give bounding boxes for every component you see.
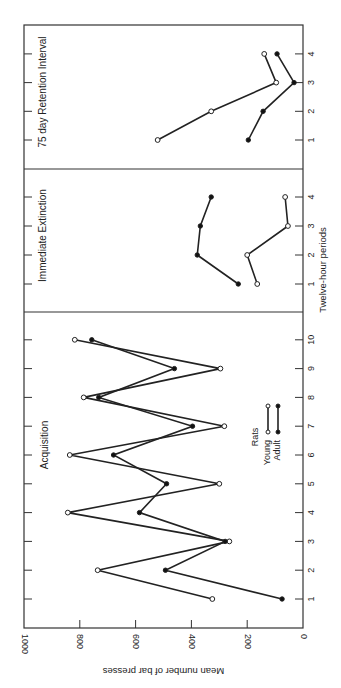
open-circle-marker [67, 453, 72, 458]
filled-circle-marker [111, 453, 115, 457]
panel-title: Acquisition [39, 421, 50, 469]
open-circle-marker [210, 597, 215, 602]
legend-open-circle-icon [266, 430, 270, 434]
series-line-adult [92, 340, 282, 599]
period-tick-label: 2 [306, 252, 316, 257]
legend-open-circle-icon [266, 404, 270, 408]
period-tick-label: 3 [306, 223, 316, 228]
open-circle-marker [274, 80, 279, 85]
period-tick-label: 1 [306, 281, 316, 286]
open-circle-marker [72, 337, 77, 342]
open-circle-marker [217, 481, 222, 486]
filled-circle-marker [236, 282, 240, 286]
period-tick-label: 1 [306, 137, 316, 142]
filled-circle-marker [163, 568, 167, 572]
open-circle-marker [255, 282, 260, 287]
period-tick-label: 3 [306, 539, 316, 544]
period-tick-label: 6 [306, 452, 316, 457]
value-tick-label: 800 [75, 634, 85, 649]
period-tick-label: 10 [306, 335, 316, 345]
panel-title: Immediate Extinction [37, 189, 48, 282]
filled-circle-marker [97, 395, 101, 399]
period-tick-label: 3 [306, 80, 316, 85]
panel-title: 75 day Retention Interval [37, 36, 48, 147]
period-tick-label: 4 [306, 194, 316, 199]
filled-circle-marker [90, 338, 94, 342]
legend-entry-label: Adult [272, 440, 282, 461]
filled-circle-marker [280, 597, 284, 601]
period-tick-label: 4 [306, 51, 316, 56]
legend: RatsYoungAdult [250, 404, 282, 465]
open-circle-marker [222, 424, 227, 429]
series-line-adult [248, 54, 294, 140]
filled-circle-marker [246, 138, 250, 142]
period-tick-label: 9 [306, 366, 316, 371]
filled-circle-marker [198, 224, 202, 228]
open-circle-marker [283, 195, 288, 200]
legend-filled-circle-icon [276, 404, 280, 408]
value-tick-label: 1000 [20, 634, 30, 654]
value-tick-label: 400 [187, 634, 197, 649]
filled-circle-marker [223, 539, 227, 543]
period-tick-label: 7 [306, 424, 316, 429]
period-tick-label: 1 [306, 596, 316, 601]
open-circle-marker [81, 395, 86, 400]
filled-circle-marker [275, 52, 279, 56]
filled-circle-marker [195, 253, 199, 257]
legend-entry-label: Young [262, 440, 272, 465]
series-line-adult [197, 197, 238, 284]
filled-circle-marker [261, 109, 265, 113]
period-tick-label: 8 [306, 395, 316, 400]
value-tick-label: 200 [243, 634, 253, 649]
filled-circle-marker [137, 510, 141, 514]
legend-title: Rats [250, 427, 260, 446]
filled-circle-marker [172, 366, 176, 370]
value-tick-label: 0 [299, 634, 309, 639]
open-circle-marker [155, 138, 160, 143]
series-line-young [247, 197, 288, 284]
period-tick-label: 2 [306, 109, 316, 114]
open-circle-marker [95, 568, 100, 573]
open-circle-marker [209, 109, 214, 114]
legend-filled-circle-icon [276, 430, 280, 434]
filled-circle-marker [164, 482, 168, 486]
open-circle-marker [286, 224, 291, 229]
period-tick-label: 4 [306, 510, 316, 515]
filled-circle-marker [209, 195, 213, 199]
open-circle-marker [262, 52, 267, 57]
period-tick-label: 5 [306, 481, 316, 486]
series-line-young [158, 54, 277, 140]
filled-circle-marker [190, 424, 194, 428]
open-circle-marker [245, 253, 250, 258]
value-tick-label: 600 [131, 634, 141, 649]
value-axis-title: Mean number of bar presses [103, 666, 225, 677]
rotated-line-chart: 02004006008001000Mean number of bar pres… [0, 0, 341, 688]
period-axis-title: Twelve-hour periods [317, 227, 328, 313]
period-tick-label: 2 [306, 568, 316, 573]
filled-circle-marker [292, 80, 296, 84]
open-circle-marker [218, 366, 223, 371]
open-circle-marker [65, 510, 70, 515]
